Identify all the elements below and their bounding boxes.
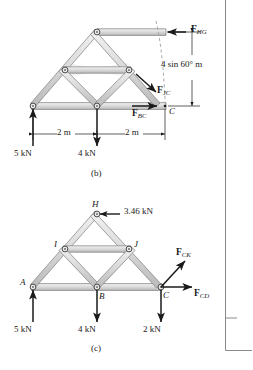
load-label-2kn-c: 2 kN: [143, 325, 161, 334]
panel-b: [30, 21, 200, 146]
truss-figure: [0, 0, 252, 370]
point-label-c-b: C: [169, 107, 175, 116]
joint-label-c-c: C: [163, 291, 169, 300]
panel-caption-c: (c): [91, 344, 101, 353]
joint-label-h-c: H: [92, 200, 99, 209]
panel-c-members: [31, 211, 162, 290]
force-label-fhg: FHG: [191, 25, 207, 35]
panel-caption-b: (b): [91, 169, 102, 178]
load-label-5kn-c: 5 kN: [14, 325, 32, 334]
load-label-4kn-b: 4 kN: [78, 149, 96, 158]
load-label-5kn-b: 5 kN: [14, 149, 32, 158]
dimension-vertical-b: [168, 32, 200, 106]
joint-label-b-c: B: [99, 292, 105, 301]
joint-label-i-c: I: [54, 240, 57, 249]
force-label-fbc: FBC: [132, 109, 147, 119]
point-c-marker-b: [164, 105, 167, 108]
page-rules: [226, 0, 253, 351]
panel-b-members: [31, 29, 166, 110]
dimension-label-2m-right: 2 m: [125, 128, 139, 137]
load-label-4kn-c: 4 kN: [78, 325, 96, 334]
load-label-346kn: 3.46 kN: [124, 207, 153, 216]
dimension-label-2m-left: 2 m: [57, 128, 71, 137]
force-label-fcd: FCD: [194, 289, 209, 299]
dimension-label-height-b: 4 sin 60° m: [161, 60, 202, 69]
force-fck-arrow: [161, 261, 185, 287]
joint-label-j-c: J: [134, 240, 138, 249]
force-label-fjc: FJC: [157, 86, 170, 96]
joint-label-a-c: A: [20, 278, 26, 287]
panel-c: [30, 211, 192, 322]
force-label-fck: FCK: [176, 248, 191, 258]
